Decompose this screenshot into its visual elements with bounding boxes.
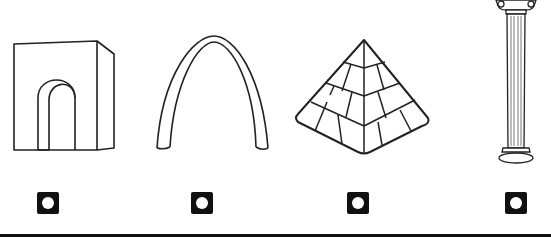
radio-option-d[interactable] [505,192,527,214]
option-pyramid[interactable] [280,0,430,232]
option-catenary-arch[interactable] [140,0,280,232]
radio-option-c[interactable] [347,192,369,214]
option-arch[interactable] [0,0,140,232]
pyramid-icon [294,38,430,158]
greek-column-icon [494,0,538,166]
gateway-arch-icon [154,34,269,154]
arch-gateway-icon [12,38,117,156]
radio-option-b[interactable] [191,192,213,214]
bottom-divider [0,234,551,237]
radio-option-a[interactable] [37,192,59,214]
option-column[interactable] [430,0,551,232]
